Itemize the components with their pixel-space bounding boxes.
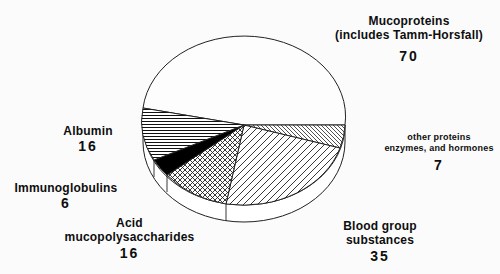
value-other-proteins: 7 <box>378 157 500 175</box>
label-mucoproteins-line2: (includes Tamm-Horsfall) <box>335 28 483 42</box>
value-immunoglobulins: 6 <box>6 195 126 212</box>
label-other-line2: enzymes, and hormones <box>384 143 493 153</box>
value-albumin: 16 <box>48 138 128 155</box>
slice-mucoproteins <box>143 36 346 125</box>
label-other-line1: other proteins <box>407 132 470 142</box>
label-immuno-line1: Immunoglobulins <box>15 181 118 195</box>
value-mucoproteins: 70 <box>318 48 500 65</box>
value-blood-group: 35 <box>325 248 435 265</box>
label-albumin: Albumin 16 <box>48 124 128 155</box>
label-acid-mucopolysaccharides: Acid mucopolysaccharides 16 <box>62 216 197 262</box>
value-acid-mucopolysaccharides: 16 <box>62 245 197 262</box>
label-blood-line1: Blood group <box>343 219 417 233</box>
label-mucoproteins: Mucoproteins (includes Tamm-Horsfall) 70 <box>318 14 500 65</box>
label-albumin-line1: Albumin <box>63 124 112 138</box>
label-other-proteins: other proteins enzymes, and hormones 7 <box>378 132 500 174</box>
label-acid-line2: mucopolysaccharides <box>65 230 195 244</box>
label-acid-line1: Acid <box>116 216 143 230</box>
label-blood-line2: substances <box>346 233 414 247</box>
label-immunoglobulins: Immunoglobulins 6 <box>6 181 126 212</box>
label-blood-group: Blood group substances 35 <box>325 219 435 265</box>
label-mucoproteins-line1: Mucoproteins <box>368 14 449 28</box>
pie-top-face <box>142 36 346 205</box>
